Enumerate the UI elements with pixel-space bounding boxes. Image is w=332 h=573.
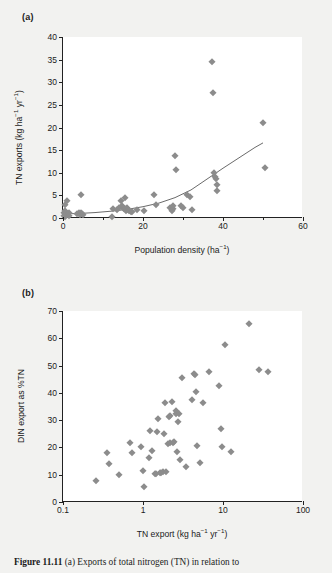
data-point-marker bbox=[148, 447, 156, 455]
x-tick-minor bbox=[263, 217, 264, 220]
panel-a-plot-area: 05101520253035400204060 bbox=[62, 37, 302, 218]
y-tick bbox=[59, 173, 63, 174]
data-point-marker bbox=[150, 192, 158, 200]
figure-caption-number: Figure 11.11 bbox=[14, 557, 62, 567]
y-tick bbox=[59, 105, 63, 106]
data-point-marker bbox=[178, 374, 186, 382]
panel-b-y-axis-title: DIN export as %TN bbox=[16, 369, 26, 443]
x-tick-label: 100 bbox=[296, 506, 310, 515]
data-point-marker bbox=[186, 193, 194, 201]
panel-a-label: (a) bbox=[22, 12, 34, 22]
x-tick-label: 0.1 bbox=[57, 506, 69, 515]
y-tick bbox=[59, 150, 63, 151]
data-point-marker bbox=[218, 443, 226, 451]
data-point-marker bbox=[227, 448, 235, 456]
data-point-marker bbox=[168, 398, 176, 406]
y-tick bbox=[59, 128, 63, 129]
data-point-marker bbox=[188, 206, 196, 214]
data-point-marker bbox=[92, 477, 100, 485]
x-tick-label: 40 bbox=[218, 222, 227, 231]
data-point-marker bbox=[182, 463, 190, 471]
data-point-marker bbox=[199, 399, 207, 407]
data-point-marker bbox=[174, 418, 182, 426]
y-tick bbox=[59, 338, 63, 339]
data-point-marker bbox=[140, 483, 148, 491]
y-tick-label: 35 bbox=[48, 55, 57, 64]
data-point-marker bbox=[214, 187, 222, 195]
y-tick-label: 40 bbox=[48, 33, 57, 42]
panel-b-label: (b) bbox=[22, 288, 34, 298]
data-point-marker bbox=[194, 442, 202, 450]
y-tick-label: 20 bbox=[48, 443, 57, 452]
data-point-marker bbox=[103, 449, 111, 457]
y-tick-label: 10 bbox=[48, 470, 57, 479]
data-point-marker bbox=[221, 341, 229, 349]
y-tick-label: 30 bbox=[48, 416, 57, 425]
data-point-marker bbox=[77, 192, 85, 200]
y-tick-label: 15 bbox=[48, 146, 57, 155]
data-point-marker bbox=[137, 443, 145, 451]
panel-b-x-axis-title: TN export (kg ha−1 yr−1) bbox=[62, 529, 302, 539]
y-tick bbox=[59, 37, 63, 38]
panel-a-regression-curve bbox=[63, 37, 303, 218]
data-point-marker bbox=[171, 152, 179, 160]
y-tick bbox=[59, 475, 63, 476]
y-tick bbox=[59, 195, 63, 196]
data-point-marker bbox=[126, 439, 134, 447]
y-tick-label: 0 bbox=[52, 214, 57, 223]
data-point-marker bbox=[154, 416, 162, 424]
figure-caption-text: (a) Exports of total nitrogen (TN) in re… bbox=[62, 557, 239, 567]
y-tick bbox=[59, 60, 63, 61]
data-point-marker bbox=[161, 430, 169, 438]
data-point-marker bbox=[128, 449, 136, 457]
data-point-marker bbox=[205, 368, 213, 376]
data-point-marker bbox=[255, 367, 263, 375]
x-tick-label: 10 bbox=[218, 506, 227, 515]
figure-container: (a) TN exports (kg ha−1 yr−1) 0510152025… bbox=[0, 0, 332, 573]
data-point-marker bbox=[188, 396, 196, 404]
data-point-marker bbox=[192, 388, 200, 396]
y-tick bbox=[59, 311, 63, 312]
data-point-marker bbox=[208, 59, 216, 67]
data-point-marker bbox=[210, 89, 218, 97]
x-tick-minor bbox=[183, 217, 184, 220]
data-point-marker bbox=[146, 454, 154, 462]
y-tick-label: 40 bbox=[48, 389, 57, 398]
x-tick-label: 60 bbox=[298, 222, 307, 231]
data-point-marker bbox=[245, 320, 253, 328]
data-point-marker bbox=[108, 213, 116, 221]
data-point-marker bbox=[261, 164, 269, 172]
y-tick-label: 10 bbox=[48, 169, 57, 178]
y-tick-label: 5 bbox=[52, 191, 57, 200]
panel-a-x-axis-title: Population density (ha−1) bbox=[62, 245, 302, 255]
data-point-marker bbox=[191, 372, 199, 380]
panel-b-plot-area: 0102030405060700.1110100 bbox=[62, 311, 302, 502]
y-tick-label: 50 bbox=[48, 361, 57, 370]
x-tick-label: 1 bbox=[141, 506, 146, 515]
data-point-marker bbox=[106, 460, 114, 468]
y-tick bbox=[59, 366, 63, 367]
figure-caption: Figure 11.11 (a) Exports of total nitrog… bbox=[14, 556, 320, 573]
y-tick-label: 30 bbox=[48, 78, 57, 87]
data-point-marker bbox=[115, 471, 123, 479]
y-tick bbox=[59, 82, 63, 83]
data-point-marker bbox=[264, 368, 272, 376]
data-point-marker bbox=[196, 459, 204, 467]
data-point-marker bbox=[139, 468, 147, 476]
panel-a: (a) TN exports (kg ha−1 yr−1) 0510152025… bbox=[0, 0, 332, 268]
x-tick-minor bbox=[103, 217, 104, 220]
panel-b: (b) DIN export as %TN 0102030405060700.1… bbox=[0, 268, 332, 550]
panel-a-y-axis-title: TN exports (kg ha−1 yr−1) bbox=[14, 90, 24, 185]
x-tick-label: 0 bbox=[61, 222, 66, 231]
data-point-marker bbox=[173, 448, 181, 456]
data-point-marker bbox=[179, 204, 187, 212]
data-point-marker bbox=[140, 207, 148, 215]
y-tick-label: 60 bbox=[48, 334, 57, 343]
y-tick bbox=[59, 447, 63, 448]
y-tick-label: 25 bbox=[48, 101, 57, 110]
y-tick bbox=[59, 420, 63, 421]
y-tick bbox=[59, 393, 63, 394]
data-point-marker bbox=[152, 201, 160, 209]
data-point-marker bbox=[153, 428, 161, 436]
y-tick-label: 20 bbox=[48, 123, 57, 132]
